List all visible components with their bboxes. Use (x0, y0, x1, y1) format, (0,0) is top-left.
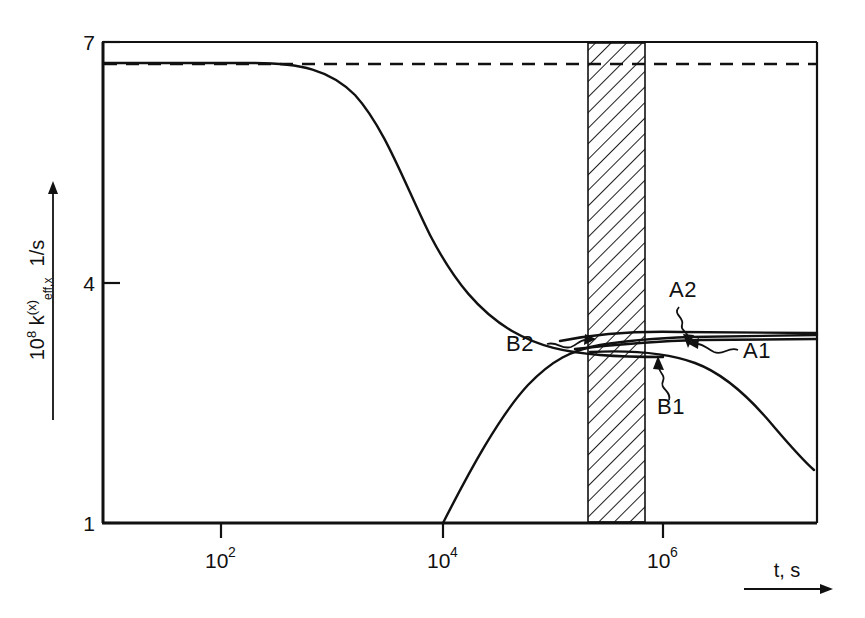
hatched-band (588, 43, 645, 522)
y-tick-label-4: 4 (83, 272, 95, 295)
x-tick-1e4-base: 10 (427, 549, 450, 572)
y-tick-label-1: 1 (83, 512, 95, 535)
figure-background (0, 0, 865, 618)
chart-svg: 7 4 1 10 2 10 4 10 6 A2 A1 B2 (0, 0, 865, 618)
y-label-sym-sup: (x) (24, 300, 39, 315)
figure-root: 7 4 1 10 2 10 4 10 6 A2 A1 B2 (0, 0, 865, 618)
curve-label-A1: A1 (743, 338, 771, 363)
x-axis-label-text: t, s (774, 559, 801, 581)
x-tick-1e2-exp: 2 (228, 544, 236, 560)
y-label-coef-exp: 8 (24, 331, 39, 338)
y-label-coef-base: 10 (26, 338, 48, 360)
x-tick-1e6-base: 10 (647, 549, 670, 572)
curve-label-A2: A2 (669, 277, 697, 302)
x-tick-1e2-base: 10 (205, 549, 228, 572)
curve-label-B1: B1 (657, 394, 685, 419)
x-tick-1e4-exp: 4 (450, 544, 458, 560)
x-tick-1e6-exp: 6 (670, 544, 678, 560)
y-label-units: 1/s (26, 240, 48, 267)
y-tick-label-7: 7 (83, 31, 95, 54)
curve-label-B2: B2 (506, 331, 534, 356)
